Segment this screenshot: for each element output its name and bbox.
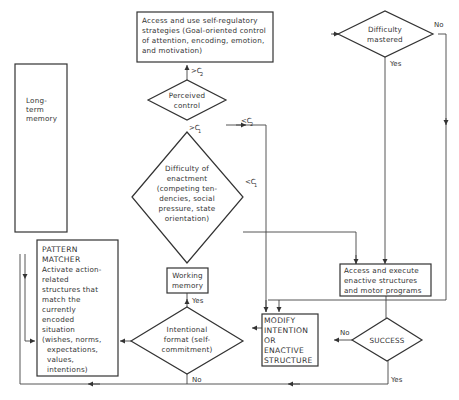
pm-line-3: Activate action- [42,265,102,274]
node-intentional-format: Intentional format (self- commitment) [131,307,243,374]
intentional-line-2: format (self- [164,335,211,344]
node-difficulty-of-enactment: Difficulty of enactment (competing ten- … [132,132,243,263]
pm-line-11: expectations, [47,345,98,354]
pm-line-6: match the [42,295,81,304]
ltm-line-3: memory [26,114,58,123]
mastered-line-2: mastered [367,35,403,44]
pm-line-13: intentions) [47,365,88,374]
enactment-line-2: enactment [167,174,208,183]
node-self-regulatory: Access and use self-regulatory strategie… [137,12,273,62]
modify-line-2: INTENTION [264,326,308,335]
pm-line-9: situation [42,325,75,334]
pm-line-8: encoded [42,315,74,324]
flowchart-canvas: Access and use self-regulatory strategie… [0,0,459,400]
node-difficulty-mastered: Difficulty mastered [338,11,433,57]
intentional-line-3: commitment) [162,345,213,354]
pm-line-12: values, [47,355,74,364]
success-label: SUCCESS [370,336,405,345]
enactment-line-6: orientation) [165,214,210,223]
label-gt-c1-sub: 1 [198,128,201,134]
mastered-line-1: Difficulty [368,25,403,34]
intentional-line-1: Intentional [167,325,208,334]
modify-line-4: ENACTIVE [264,346,304,355]
pm-line-5: structures that [42,285,98,294]
label-lt-c2-sub: 2 [250,121,253,127]
node-pattern-matcher: PATTERN MATCHER Activate action- related… [37,240,118,376]
pm-line-4: related [42,275,69,284]
selfreg-line-4: and motivation) [142,46,202,55]
enactment-line-5: pressure, state [159,204,216,213]
node-long-term-memory: Long- term memory [15,64,67,232]
node-access-execute: Access and execute enactive structures a… [340,264,431,296]
pm-line-10: (wishes, norms, [42,335,102,344]
label-no-mastered: No [434,21,444,29]
enactment-line-1: Difficulty of [165,164,209,173]
selfreg-line-3: of attention, encoding, emotion, [142,36,264,45]
label-lt-c1-sub: 1 [254,182,257,188]
modify-line-3: OR [264,336,276,345]
perceived-line-2: control [174,101,200,110]
pm-line-7: currently [42,305,77,314]
selfreg-line-1: Access and use self-regulatory [142,16,258,25]
execute-line-2: enactive structures [344,276,417,285]
wm-line-2: memory [172,281,204,290]
wm-line-1: Working [172,271,203,280]
edge-enactment-lt-c1 [243,232,356,264]
modify-line-1: MODIFY [264,316,295,325]
modify-line-5: STRUCTURE [264,356,313,365]
ltm-line-2: term [26,105,44,114]
execute-line-3: and motor programs [344,286,422,295]
edge-perceived-lt-c2 [226,125,266,312]
pm-line-1: PATTERN [42,245,78,254]
label-no-success: No [340,329,350,337]
label-gt-c2-sub: 2 [200,71,203,77]
node-success: SUCCESS [352,318,422,361]
label-yes-mastered: Yes [389,60,402,68]
enactment-line-3: (competing ten- [157,184,218,193]
ltm-line-1: Long- [26,96,47,105]
pm-line-2: MATCHER [42,255,81,264]
edge-mastered-no [268,34,446,300]
label-yes-intentional: Yes [191,297,204,305]
label-no-intentional: No [192,376,202,384]
node-working-memory: Working memory [167,268,208,293]
enactment-line-4: dencies, social [159,194,215,203]
node-perceived-control: Perceived control [148,80,226,120]
label-yes-success: Yes [390,376,403,384]
execute-line-1: Access and execute [344,266,419,275]
node-modify-intention: MODIFY INTENTION OR ENACTIVE STRUCTURE [262,314,318,366]
perceived-line-1: Perceived [169,91,206,100]
selfreg-line-2: strategies (Goal-oriented control [142,26,266,35]
